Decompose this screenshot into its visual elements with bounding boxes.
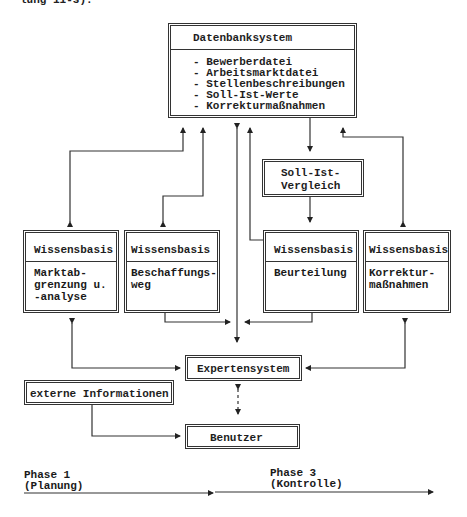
knowledge-base-text: Beurteilung — [274, 267, 347, 279]
knowledge-base-text: -analyse — [34, 291, 87, 303]
knowledge-base-text: maßnahmen — [369, 279, 428, 291]
comparison-line-1: Soll-Ist- — [281, 168, 340, 179]
knowledge-base-assessment-box: Wissensbasis Beurteilung — [263, 230, 359, 313]
external-information-box: externe Informationen — [24, 380, 174, 405]
database-divider — [171, 49, 354, 50]
external-information-label: externe Informationen — [30, 389, 169, 400]
knowledge-base-text: weg — [131, 279, 151, 291]
expert-system-box: Expertensystem — [185, 355, 302, 381]
user-box: Benutzer — [185, 424, 300, 449]
knowledge-base-title: Wissensbasis — [131, 245, 210, 256]
knowledge-base-market-box: Wissensbasis Marktab- grenzung u. -analy… — [23, 230, 119, 313]
knowledge-base-procurement-box: Wissensbasis Beschaffungs- weg — [124, 230, 220, 313]
knowledge-base-divider — [266, 261, 356, 262]
knowledge-base-corrective-box: Wissensbasis Korrektur- maßnahmen — [363, 230, 451, 313]
database-title: Datenbanksystem — [193, 33, 292, 44]
knowledge-base-text: Beschaffungs- — [131, 267, 217, 279]
database-item: - Korrekturmaßnahmen — [193, 101, 325, 112]
knowledge-base-title: Wissensbasis — [369, 245, 448, 256]
knowledge-base-title: Wissensbasis — [34, 245, 113, 256]
target-actual-comparison-box: Soll-Ist- Vergleich — [262, 159, 364, 197]
phase-1-description: (Planung) — [24, 480, 83, 492]
phase-3-description: (Kontrolle) — [270, 478, 343, 490]
knowledge-base-divider — [366, 261, 448, 262]
expert-system-label: Expertensystem — [197, 364, 289, 375]
knowledge-base-divider — [127, 261, 217, 262]
knowledge-base-text: grenzung u. — [34, 279, 107, 291]
knowledge-base-title: Wissensbasis — [274, 245, 353, 256]
knowledge-base-text: Korrektur- — [369, 267, 435, 279]
database-system-box: Datenbanksystem - Bewerberdatei - Arbeit… — [168, 23, 357, 118]
comparison-line-2: Vergleich — [281, 181, 340, 192]
knowledge-base-divider — [26, 261, 116, 262]
user-label: Benutzer — [210, 433, 263, 444]
knowledge-base-text: Marktab- — [34, 267, 87, 279]
